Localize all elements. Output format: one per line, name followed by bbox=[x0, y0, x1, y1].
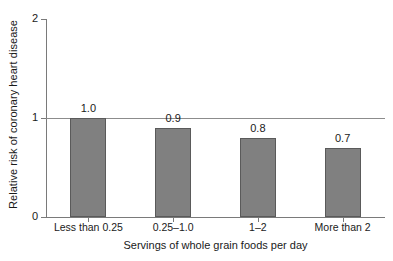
y-axis-title-text: Relative risk of coronary heart disease bbox=[9, 19, 20, 208]
x-tick-label: 0.25–1.0 bbox=[153, 222, 194, 233]
bar-group: 0.8 bbox=[240, 19, 276, 217]
bar[interactable] bbox=[325, 148, 361, 217]
x-tick-label: 1–2 bbox=[249, 222, 267, 233]
bar-group: 1.0 bbox=[70, 19, 106, 217]
bar[interactable] bbox=[70, 118, 106, 217]
y-tick-label-2: 2 bbox=[22, 13, 38, 24]
bar-group: 0.9 bbox=[155, 19, 191, 217]
bar-group: 0.7 bbox=[325, 19, 361, 217]
x-axis-title: Servings of whole grain foods per day bbox=[46, 240, 385, 251]
x-axis-line bbox=[46, 217, 385, 218]
bar-value-label: 0.7 bbox=[335, 133, 350, 144]
bar-value-label: 1.0 bbox=[81, 103, 96, 114]
bar-chart-figure: Relative risk of coronary heart disease … bbox=[0, 0, 393, 261]
x-tick-label: Less than 0.25 bbox=[54, 222, 123, 233]
x-tick-label: More than 2 bbox=[315, 222, 371, 233]
plot-area: 1.00.90.80.7 bbox=[46, 19, 385, 217]
y-tick-label-0: 0 bbox=[22, 211, 38, 222]
bar-value-label: 0.8 bbox=[250, 123, 265, 134]
bar[interactable] bbox=[155, 128, 191, 217]
bar[interactable] bbox=[240, 138, 276, 217]
y-tick-label-1: 1 bbox=[22, 112, 38, 123]
bar-value-label: 0.9 bbox=[165, 113, 180, 124]
y-tick-mark-0 bbox=[41, 217, 46, 218]
